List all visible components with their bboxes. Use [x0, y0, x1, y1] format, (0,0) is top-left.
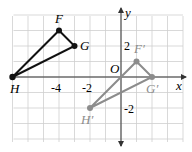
- tick-label-x-neg2: -2: [82, 81, 92, 95]
- tick-label-x-neg4: -4: [51, 81, 61, 95]
- vertex-label-g: G: [80, 38, 90, 53]
- vertex-label-h-prime: H′: [80, 112, 93, 127]
- vertex-label-f: F: [54, 11, 64, 26]
- coordinate-plane: x y O -4 -2 2 -2 F G H F′ G′ H′: [0, 0, 192, 152]
- vertex-label-f-prime: F′: [133, 41, 145, 56]
- origin-label: O: [110, 61, 120, 76]
- axis-labels: x y O -4 -2 2 -2: [51, 5, 182, 116]
- vertex-label-h: H: [9, 81, 20, 96]
- tick-label-y-neg2: -2: [124, 102, 134, 116]
- triangle-fgh: F G H: [9, 11, 90, 96]
- x-axis-label: x: [175, 78, 182, 93]
- grid: [13, 15, 184, 142]
- vertex-label-g-prime: G′: [146, 81, 158, 96]
- y-axis-label: y: [123, 5, 131, 20]
- tick-label-y-2: 2: [124, 39, 130, 53]
- axes: [14, 8, 186, 146]
